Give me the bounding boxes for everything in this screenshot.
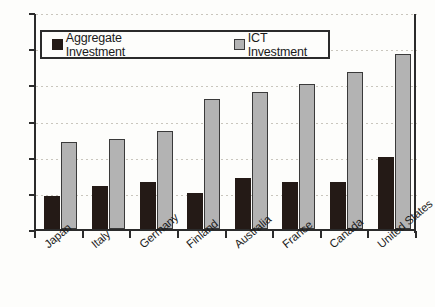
x-axis-tick xyxy=(367,231,369,238)
x-axis-tick xyxy=(34,231,36,238)
bar-aggregate xyxy=(330,182,346,229)
x-axis-tick xyxy=(320,231,322,238)
bar-aggregate xyxy=(92,186,108,229)
bar-ict xyxy=(252,92,268,229)
bar-ict xyxy=(61,142,77,229)
y-axis-tick xyxy=(29,85,35,87)
bar-aggregate xyxy=(187,193,203,229)
legend-entry-ict: ICT Investment xyxy=(234,32,328,57)
legend-label-ict: ICT Investment xyxy=(248,31,328,59)
x-axis-tick xyxy=(415,231,417,238)
x-axis-tick xyxy=(129,231,131,238)
axis-right-border xyxy=(414,14,416,233)
bar-aggregate xyxy=(235,178,251,229)
ict-swatch-icon xyxy=(234,39,245,50)
bar-group xyxy=(369,12,417,229)
x-axis-tick xyxy=(272,231,274,238)
chart-legend: Aggregate Investment ICT Investment xyxy=(40,30,330,59)
bar-ict xyxy=(109,139,125,229)
aggregate-swatch-icon xyxy=(52,39,63,50)
bar-ict xyxy=(395,54,411,229)
bar-ict xyxy=(204,99,220,229)
legend-entry-aggregate: Aggregate Investment xyxy=(52,32,182,57)
x-axis-tick xyxy=(177,231,179,238)
x-axis-tick xyxy=(225,231,227,238)
bar-aggregate xyxy=(44,196,60,229)
bar-aggregate xyxy=(282,182,298,229)
y-axis-tick xyxy=(29,122,35,124)
x-axis-tick xyxy=(82,231,84,238)
y-axis-tick xyxy=(29,13,35,15)
y-axis-tick xyxy=(29,49,35,51)
bar-ict xyxy=(347,72,363,229)
bar-aggregate xyxy=(140,182,156,229)
bar-aggregate xyxy=(378,157,394,229)
x-axis-label: Italy xyxy=(89,228,112,250)
y-axis-tick xyxy=(29,158,35,160)
y-axis-tick xyxy=(29,194,35,196)
legend-label-aggregate: Aggregate Investment xyxy=(66,31,182,59)
bar-ict xyxy=(299,84,315,229)
